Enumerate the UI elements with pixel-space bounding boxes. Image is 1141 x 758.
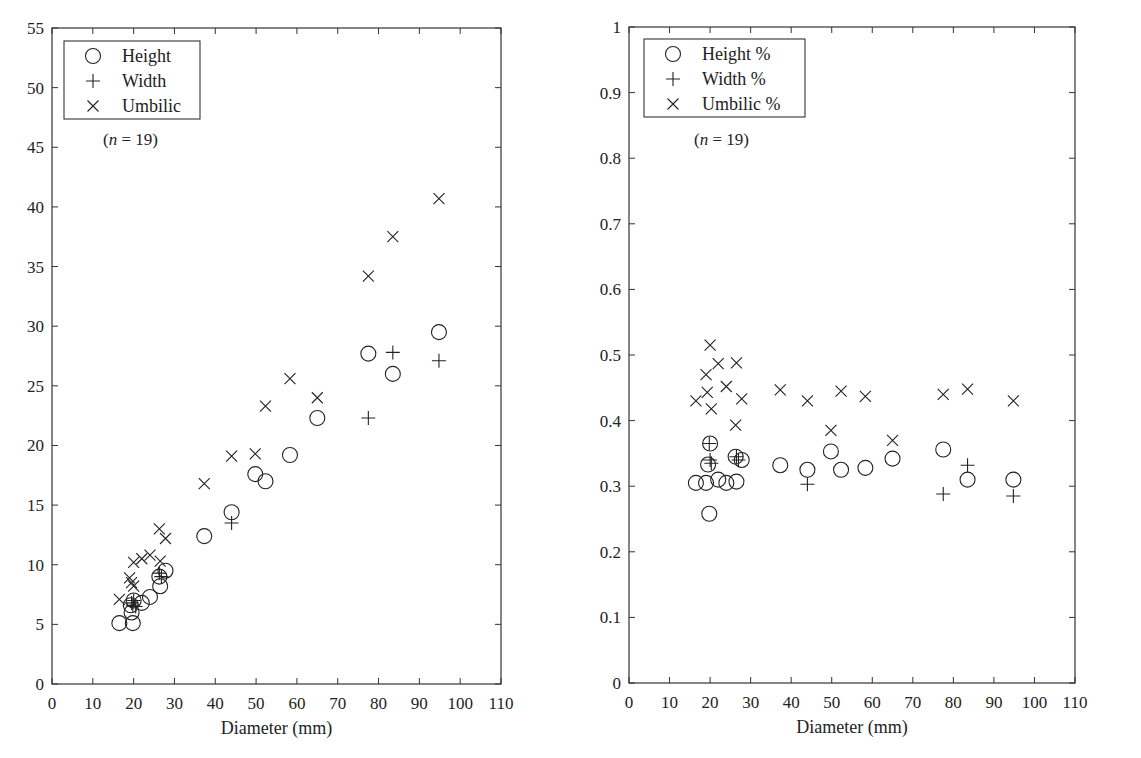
x-tick-label: 90 bbox=[985, 693, 1002, 712]
y-tick-label: 25 bbox=[27, 377, 44, 396]
data-point-x bbox=[731, 357, 742, 368]
x-tick-label: 10 bbox=[84, 694, 101, 713]
data-point-x bbox=[1008, 395, 1019, 406]
data-point-circle bbox=[773, 458, 788, 473]
data-point-x bbox=[825, 425, 836, 436]
data-point-circle bbox=[310, 411, 325, 426]
data-point-circle bbox=[158, 563, 173, 578]
y-tick-label: 0.2 bbox=[600, 543, 621, 562]
y-tick-label: 50 bbox=[27, 79, 44, 98]
y-tick-label: 35 bbox=[27, 258, 44, 277]
y-tick-label: 1 bbox=[613, 18, 622, 37]
data-point-plus bbox=[361, 411, 375, 425]
data-point-x bbox=[775, 384, 786, 395]
data-point-circle bbox=[248, 467, 263, 482]
data-point-x bbox=[690, 395, 701, 406]
plot-frame bbox=[52, 28, 501, 684]
x-tick-label: 50 bbox=[248, 694, 265, 713]
legend-label: Umbilic bbox=[122, 96, 181, 116]
data-point-x bbox=[226, 451, 237, 462]
chart-dimensions-vs-diameter: 0102030405060708090100110051015202530354… bbox=[0, 0, 565, 758]
x-tick-label: 50 bbox=[823, 693, 840, 712]
data-point-x bbox=[284, 373, 295, 384]
y-tick-label: 55 bbox=[27, 19, 44, 38]
plot-frame bbox=[629, 27, 1075, 683]
data-point-circle bbox=[936, 442, 951, 457]
x-tick-label: 110 bbox=[1063, 693, 1088, 712]
data-point-x bbox=[736, 393, 747, 404]
y-tick-label: 0.6 bbox=[600, 280, 621, 299]
data-point-x bbox=[702, 387, 713, 398]
scatter-plot-left: 0102030405060708090100110051015202530354… bbox=[0, 0, 565, 758]
x-axis-title: Diameter (mm) bbox=[796, 717, 907, 738]
y-tick-label: 0.8 bbox=[600, 149, 621, 168]
data-point-x bbox=[706, 403, 717, 414]
scatter-plot-right: 010203040506070809010011000.10.20.30.40.… bbox=[570, 0, 1141, 758]
data-point-plus bbox=[800, 477, 814, 491]
legend-label: Width bbox=[122, 71, 166, 91]
x-tick-label: 0 bbox=[625, 693, 634, 712]
data-point-x bbox=[312, 392, 323, 403]
data-point-plus bbox=[1006, 489, 1020, 503]
legend-label: Height % bbox=[702, 44, 770, 64]
series-height bbox=[688, 436, 1020, 521]
data-point-x bbox=[126, 577, 137, 588]
series-height bbox=[112, 325, 447, 631]
x-tick-label: 40 bbox=[783, 693, 800, 712]
legend: HeightWidthUmbilic bbox=[64, 41, 200, 119]
data-point-plus bbox=[961, 458, 975, 472]
data-point-circle bbox=[282, 447, 297, 462]
data-point-x bbox=[701, 369, 712, 380]
x-tick-label: 80 bbox=[370, 694, 387, 713]
data-point-x bbox=[962, 384, 973, 395]
data-point-circle bbox=[729, 474, 744, 489]
y-tick-label: 5 bbox=[36, 615, 45, 634]
data-point-plus bbox=[432, 354, 446, 368]
data-point-x bbox=[860, 391, 871, 402]
data-point-circle bbox=[431, 325, 446, 340]
data-point-circle bbox=[823, 444, 838, 459]
series-umbilic bbox=[690, 340, 1018, 446]
y-tick-label: 0.3 bbox=[600, 477, 621, 496]
x-tick-label: 90 bbox=[411, 694, 428, 713]
data-point-x bbox=[260, 401, 271, 412]
data-point-x bbox=[836, 386, 847, 397]
data-point-circle bbox=[719, 475, 734, 490]
data-point-x bbox=[160, 533, 171, 544]
series-width bbox=[702, 437, 1020, 503]
data-point-x bbox=[705, 340, 716, 351]
x-tick-label: 80 bbox=[945, 693, 962, 712]
data-point-x bbox=[387, 231, 398, 242]
data-point-circle bbox=[858, 460, 873, 475]
data-point-x bbox=[802, 395, 813, 406]
data-point-circle bbox=[385, 366, 400, 381]
y-tick-label: 0.4 bbox=[600, 412, 622, 431]
data-point-circle bbox=[361, 346, 376, 361]
y-tick-label: 10 bbox=[27, 556, 44, 575]
y-tick-label: 0.1 bbox=[600, 608, 621, 627]
y-axis: 0510152025303540455055 bbox=[27, 19, 501, 694]
legend-label: Umbilic % bbox=[702, 94, 781, 114]
sample-size-annotation: (n = 19) bbox=[103, 130, 158, 149]
x-axis-title: Diameter (mm) bbox=[221, 718, 332, 739]
data-point-circle bbox=[258, 474, 273, 489]
data-point-circle bbox=[960, 472, 975, 487]
data-point-x bbox=[887, 435, 898, 446]
data-point-x bbox=[199, 478, 210, 489]
y-tick-label: 0 bbox=[613, 674, 622, 693]
x-tick-label: 70 bbox=[904, 693, 921, 712]
x-tick-label: 0 bbox=[48, 694, 57, 713]
chart-ratios-vs-diameter: 010203040506070809010011000.10.20.30.40.… bbox=[570, 0, 1141, 758]
x-tick-label: 110 bbox=[489, 694, 514, 713]
data-point-circle bbox=[1006, 472, 1021, 487]
y-tick-label: 0.9 bbox=[600, 84, 621, 103]
data-point-x bbox=[433, 193, 444, 204]
data-point-circle bbox=[112, 616, 127, 631]
x-tick-label: 60 bbox=[864, 693, 881, 712]
y-tick-label: 0.7 bbox=[600, 215, 622, 234]
x-tick-label: 60 bbox=[288, 694, 305, 713]
x-tick-label: 30 bbox=[166, 694, 183, 713]
data-point-circle bbox=[153, 579, 168, 594]
y-tick-label: 0 bbox=[36, 675, 45, 694]
data-point-x bbox=[114, 594, 125, 605]
